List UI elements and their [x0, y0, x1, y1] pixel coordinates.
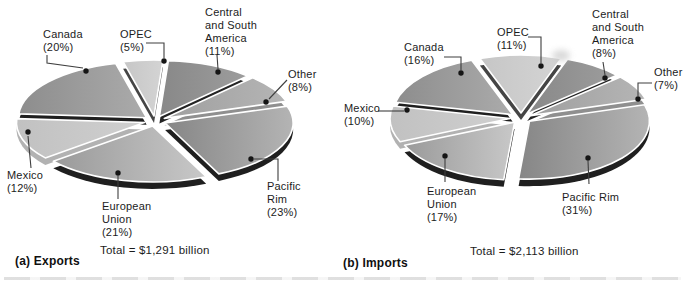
- slice-label-imports-opec: OPEC (11%): [497, 26, 529, 52]
- scan-edge-artifact: [4, 277, 681, 280]
- slice-label-imports-central-south-america: Central and South America (8%): [592, 8, 644, 60]
- trade-pie-charts-figure: Canada (20%) OPEC (5%) Central and South…: [0, 0, 685, 283]
- slice-label-exports-other: Other (8%): [288, 68, 317, 94]
- pie-charts-canvas: [0, 0, 685, 283]
- leader-dot-exports-mexico: [25, 129, 30, 134]
- leader-dot-imports-pacific-rim: [585, 155, 590, 160]
- leader-dot-imports-european-union: [442, 153, 447, 158]
- leader-dot-imports-other: [635, 96, 640, 101]
- slice-label-imports-european-union: European Union (17%): [427, 185, 476, 224]
- slice-label-exports-central-south-america: Central and South America (11%): [205, 6, 257, 58]
- total-exports: Total = $1,291 billion: [100, 244, 210, 256]
- slice-label-exports-opec: OPEC (5%): [120, 28, 152, 54]
- leader-dot-imports-opec: [538, 63, 543, 68]
- print-smudge-artifact: [552, 50, 570, 61]
- slice-label-exports-canada: Canada (20%): [43, 28, 83, 54]
- leader-dot-exports-other: [263, 99, 268, 104]
- slice-label-exports-european-union: European Union (21%): [102, 200, 151, 239]
- slice-label-exports-pacific-rim: Pacific Rim (23%): [267, 180, 301, 219]
- leader-dot-imports-canada: [458, 70, 463, 75]
- caption-exports: (a) Exports: [15, 254, 80, 268]
- caption-imports: (b) Imports: [343, 256, 408, 270]
- leader-dot-exports-canada: [83, 68, 88, 73]
- slice-label-imports-pacific-rim: Pacific Rim (31%): [562, 191, 619, 217]
- leader-line-exports-canada: [47, 55, 83, 68]
- leader-dot-imports-mexico: [404, 107, 409, 112]
- slice-label-exports-mexico: Mexico (12%): [7, 169, 43, 195]
- total-imports: Total = $2,113 billion: [470, 245, 579, 257]
- slice-label-imports-canada: Canada (16%): [404, 41, 444, 67]
- slice-label-imports-other: Other (7%): [654, 66, 683, 92]
- slice-label-imports-mexico: Mexico (10%): [344, 102, 380, 128]
- leader-dot-exports-european-union: [115, 170, 120, 175]
- leader-dot-exports-pacific-rim: [248, 156, 253, 161]
- leader-dot-imports-central-and-south-america: [602, 75, 607, 80]
- leader-dot-exports-central-and-south-america: [215, 69, 220, 74]
- leader-dot-exports-opec: [161, 58, 166, 63]
